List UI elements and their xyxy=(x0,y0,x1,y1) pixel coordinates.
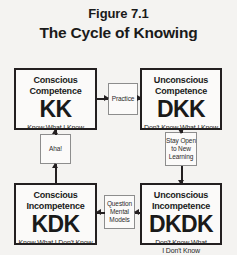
connector-label-line1: Question xyxy=(107,200,132,207)
arrow-kk-to-practice-icon xyxy=(97,95,108,102)
figure-number: Figure 7.1 xyxy=(0,6,237,22)
quadrant-title: Unconscious Incompetence xyxy=(142,190,220,211)
connector-label: Question Mental Models xyxy=(107,200,132,224)
quadrant-title: Conscious Incompetence xyxy=(16,190,95,211)
connector-label: Practice xyxy=(112,95,135,103)
quadrant-title: Unconscious Competence xyxy=(142,75,220,96)
connector-label-line2: Mental xyxy=(110,208,129,215)
quadrant-code: DKK xyxy=(142,97,220,122)
quadrant-title: Conscious Competence xyxy=(16,75,95,96)
quadrant-subtitle-line2: I Don't Know xyxy=(162,247,200,254)
connector-box-aha: Aha! xyxy=(40,134,71,164)
arrow-kdk-to-aha-icon xyxy=(52,164,59,183)
arrow-stay-open-to-dkdk-icon xyxy=(178,166,185,184)
quadrant-box-unconscious-competence: Unconscious Competence DKK Don't Know Wh… xyxy=(140,68,222,130)
figure-title: The Cycle of Knowing xyxy=(0,23,237,43)
arrow-aha-to-kk-icon xyxy=(52,130,59,135)
quadrant-subtitle: Don't Know What I Don't Know xyxy=(142,239,220,255)
connector-label: Aha! xyxy=(49,145,62,153)
quadrant-code: KK xyxy=(16,97,95,122)
quadrant-box-unconscious-incompetence: Unconscious Incompetence DKDK Don't Know… xyxy=(140,183,222,245)
arrow-practice-to-dkk-icon xyxy=(138,95,141,102)
quadrant-subtitle: Know What I Don't Know xyxy=(16,239,95,247)
arrow-dkdk-to-question-icon xyxy=(135,209,141,216)
quadrant-code: KDK xyxy=(16,212,95,237)
connector-box-question-mental-models: Question Mental Models xyxy=(104,195,135,229)
connector-label-line1: Stay Open xyxy=(166,137,196,144)
connector-label: Stay Open to New Learning xyxy=(166,137,196,161)
connector-box-practice: Practice xyxy=(108,83,138,115)
connector-label-line3: Learning xyxy=(169,153,194,160)
connector-box-stay-open: Stay Open to New Learning xyxy=(165,132,197,166)
figure-header: Figure 7.1 The Cycle of Knowing xyxy=(0,6,237,43)
connector-label-line3: Models xyxy=(109,216,129,223)
quadrant-subtitle-line1: Don't Know What xyxy=(155,239,207,246)
arrow-question-to-kdk-icon xyxy=(97,209,105,216)
quadrant-box-conscious-competence: Conscious Competence KK Know What I Know xyxy=(14,68,97,130)
quadrant-code: DKDK xyxy=(142,212,220,237)
quadrant-box-conscious-incompetence: Conscious Incompetence KDK Know What I D… xyxy=(14,183,97,245)
arrow-dkk-to-stay-open-icon xyxy=(178,130,185,133)
connector-label-line2: to New xyxy=(171,145,191,152)
